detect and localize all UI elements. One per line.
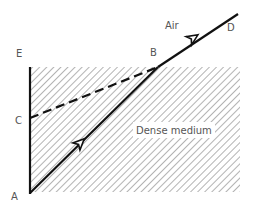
arrow-icon-BD (186, 31, 201, 45)
label-point-C: C (15, 115, 22, 126)
label-point-B: B (150, 47, 157, 58)
label-point-D: D (227, 22, 235, 33)
label-point-A: A (11, 191, 18, 202)
label-air: Air (165, 20, 180, 31)
label-dense-medium: Dense medium (136, 125, 212, 136)
label-point-E: E (16, 48, 22, 59)
refraction-diagram: Air Dense medium A B C D E (0, 0, 255, 212)
